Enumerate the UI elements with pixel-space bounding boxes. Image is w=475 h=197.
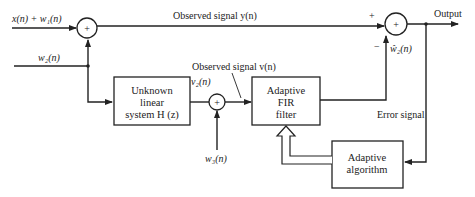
svg-text:Adaptive: Adaptive bbox=[267, 85, 306, 96]
svg-text:algorithm: algorithm bbox=[347, 164, 388, 175]
sum-symbol: + bbox=[214, 97, 220, 108]
svg-text:FIR: FIR bbox=[278, 97, 294, 108]
svg-text:filter: filter bbox=[276, 109, 297, 120]
sum-junction-middle: + bbox=[209, 94, 225, 110]
sum-symbol: + bbox=[393, 19, 399, 30]
observed-v-pointer bbox=[232, 73, 241, 98]
v2-label: v₂(n) bbox=[191, 76, 211, 88]
unknown-linear-system-block: Unknown linear system H (z) bbox=[114, 77, 190, 125]
sum-junction-top: + bbox=[77, 18, 97, 38]
adaptive-algorithm-block: Adaptive algorithm bbox=[332, 141, 403, 188]
svg-text:linear: linear bbox=[140, 97, 164, 108]
output-label: Output bbox=[434, 8, 462, 19]
svg-text:Adaptive: Adaptive bbox=[348, 152, 387, 163]
observed-y-label: Observed signal y(n) bbox=[173, 10, 257, 22]
svg-text:Unknown: Unknown bbox=[131, 85, 173, 96]
error-signal-label: Error signal bbox=[377, 109, 425, 120]
sum-junction-output: + bbox=[385, 13, 407, 35]
w2-hat-label: ŵ₂(n) bbox=[390, 43, 412, 55]
adaptive-noise-cancellation-diagram: x(n) + w₁(n) + w₂(n) Observed signal y(n… bbox=[0, 0, 475, 197]
minus-sign: − bbox=[374, 41, 380, 52]
w2-to-unknown-system-wire bbox=[88, 66, 112, 102]
input-w2-label: w₂(n) bbox=[38, 52, 60, 64]
plus-sign-y: + bbox=[369, 10, 375, 21]
input-x-w1-label: x(n) + w₁(n) bbox=[11, 13, 62, 25]
adaptive-fir-filter-block: Adaptive FIR filter bbox=[252, 77, 320, 125]
coefficient-update-arrow bbox=[277, 126, 332, 164]
svg-text:system H (z): system H (z) bbox=[125, 109, 179, 121]
observed-v-label: Observed signal v(n) bbox=[192, 61, 276, 73]
input-w3-label: w₃(n) bbox=[205, 153, 227, 165]
sum-symbol: + bbox=[84, 23, 90, 34]
